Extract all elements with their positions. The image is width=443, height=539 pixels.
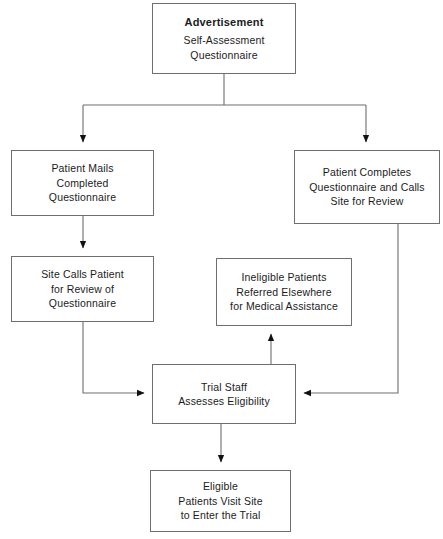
node-patient-mails-line-2: Completed [56, 176, 108, 191]
node-eligible-patients: Eligible Patients Visit Site to Enter th… [150, 470, 291, 532]
node-site-calls-line-1: Site Calls Patient [41, 267, 124, 282]
node-patient-completes: Patient Completes Questionnaire and Call… [294, 150, 440, 224]
node-trial-staff-line-1: Trial Staff [201, 380, 247, 395]
node-trial-staff-line-2: Assesses Eligibility [178, 394, 270, 409]
node-eligible-line-1: Eligible [203, 479, 238, 494]
node-advertisement-heading: Advertisement [184, 15, 263, 30]
node-patient-mails-line-1: Patient Mails [51, 161, 113, 176]
node-ineligible-line-3: for Medical Assistance [230, 299, 338, 314]
node-patient-mails-line-3: Questionnaire [49, 190, 116, 205]
node-site-calls: Site Calls Patient for Review of Questio… [11, 256, 154, 322]
node-advertisement: Advertisement Self-Assessment Questionna… [152, 3, 296, 74]
node-trial-staff: Trial Staff Assesses Eligibility [152, 364, 296, 424]
node-patient-completes-line-2: Questionnaire and Calls [309, 180, 425, 195]
node-patient-mails: Patient Mails Completed Questionnaire [11, 150, 154, 216]
node-site-calls-line-3: Questionnaire [49, 296, 116, 311]
node-ineligible-patients: Ineligible Patients Referred Elsewhere f… [216, 258, 352, 326]
node-eligible-line-3: to Enter the Trial [181, 508, 261, 523]
node-patient-completes-line-3: Site for Review [331, 194, 404, 209]
node-ineligible-line-2: Referred Elsewhere [236, 285, 332, 300]
node-advertisement-line-2: Questionnaire [190, 48, 257, 63]
node-site-calls-line-2: for Review of [51, 282, 114, 297]
edge-site-calls-to-trial-staff [83, 322, 144, 393]
node-eligible-line-2: Patients Visit Site [178, 494, 262, 509]
node-advertisement-line-1: Self-Assessment [183, 33, 264, 48]
node-ineligible-line-1: Ineligible Patients [241, 270, 326, 285]
node-patient-completes-line-1: Patient Completes [323, 165, 411, 180]
